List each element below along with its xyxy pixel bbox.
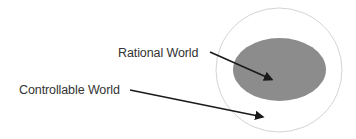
rational-world-label: Rational World bbox=[118, 46, 198, 60]
diagram-shapes bbox=[0, 0, 356, 139]
controllable-world-label: Controllable World bbox=[19, 83, 120, 97]
rational-world-ellipse bbox=[233, 38, 326, 101]
venn-diagram: Rational World Controllable World bbox=[0, 0, 356, 139]
